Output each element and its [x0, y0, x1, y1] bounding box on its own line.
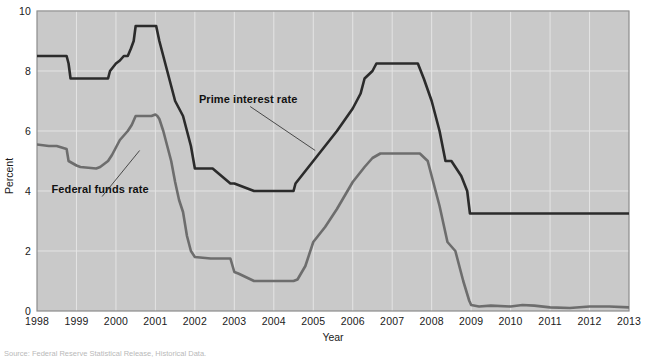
x-axis-tick-label: 2008: [420, 315, 444, 327]
series-label-prime-interest-rate: Prime interest rate: [199, 93, 298, 105]
x-axis-tick-label: 2009: [459, 315, 483, 327]
x-axis-tick-label: 2004: [262, 315, 286, 327]
x-axis-tick-label: 1998: [25, 315, 49, 327]
x-axis-tick-label: 2010: [499, 315, 523, 327]
x-axis-tick-label: 2005: [301, 315, 325, 327]
x-axis-tick-label: 2013: [617, 315, 641, 327]
x-axis-tick-label: 2011: [538, 315, 561, 327]
x-axis-tick-label: 2012: [577, 315, 601, 327]
y-axis-tick-label: 10: [19, 5, 31, 17]
x-axis-tick-labels: 1998199920002001200220032004200520062007…: [25, 315, 641, 327]
x-axis-tick-label: 2000: [104, 315, 128, 327]
x-axis-tick-label: 2002: [183, 315, 207, 327]
x-axis-title: Year: [322, 331, 344, 343]
x-axis-tick-label: 2003: [222, 315, 246, 327]
x-axis-tick-label: 2007: [380, 315, 404, 327]
y-axis-tick-label: 8: [25, 65, 31, 77]
y-axis-tick-labels: 0246810: [19, 5, 31, 317]
y-axis-tick-label: 4: [25, 185, 31, 197]
interest-rates-line-chart: 0246810 19981999200020012002200320042005…: [0, 0, 645, 359]
y-axis-tick-label: 6: [25, 125, 31, 137]
y-axis-title: Percent: [3, 158, 15, 194]
x-axis-tick-label: 1999: [64, 315, 88, 327]
x-axis-tick-label: 2006: [341, 315, 365, 327]
source-note: Source: Federal Reserve Statistical Rele…: [4, 349, 206, 358]
y-axis-tick-label: 2: [25, 245, 31, 257]
series-label-federal-funds-rate: Federal funds rate: [52, 183, 149, 195]
chart-canvas: 0246810 19981999200020012002200320042005…: [0, 0, 645, 359]
x-axis-tick-label: 2001: [143, 315, 167, 327]
